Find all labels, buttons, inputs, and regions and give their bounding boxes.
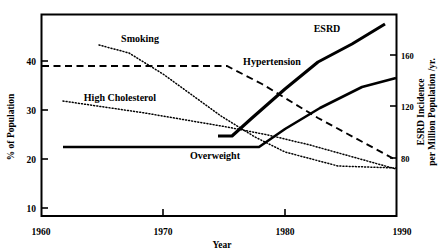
chart-svg: 40 30 20 10 160 120 80 1960 1970 1980 19… (0, 0, 448, 252)
y-axis-title-right: ESRD Incidenceper Million Population /yr… (416, 58, 437, 166)
x-tick-label-1960: 1960 (32, 227, 51, 237)
series-label-esrd: ESRD (314, 23, 341, 34)
series-label-smoking: Smoking (121, 33, 159, 44)
y-tick-label-10: 10 (27, 204, 37, 214)
y-axis-title-left: % of Population (6, 93, 16, 160)
x-tick-label-1980: 1980 (276, 227, 295, 237)
x-tick-label-1990: 1990 (393, 227, 412, 237)
x-axis-title: Year (213, 240, 233, 250)
series-label-overweight: Overweight (190, 150, 241, 161)
y-tick-label-40: 40 (27, 57, 37, 67)
x-ticks (163, 209, 285, 216)
x-tick-label-1970: 1970 (154, 227, 173, 237)
chart-figure: 40 30 20 10 160 120 80 1960 1970 1980 19… (0, 0, 448, 252)
y2-tick-label-80: 80 (401, 154, 410, 164)
y-tick-label-20: 20 (27, 155, 37, 165)
y2-tick-label-120: 120 (401, 102, 414, 112)
y-tick-label-30: 30 (27, 106, 37, 116)
series-label-high-cholesterol: High Cholesterol (84, 92, 157, 103)
series-label-hypertension: Hypertension (243, 56, 301, 67)
y2-tick-label-160: 160 (401, 51, 414, 61)
